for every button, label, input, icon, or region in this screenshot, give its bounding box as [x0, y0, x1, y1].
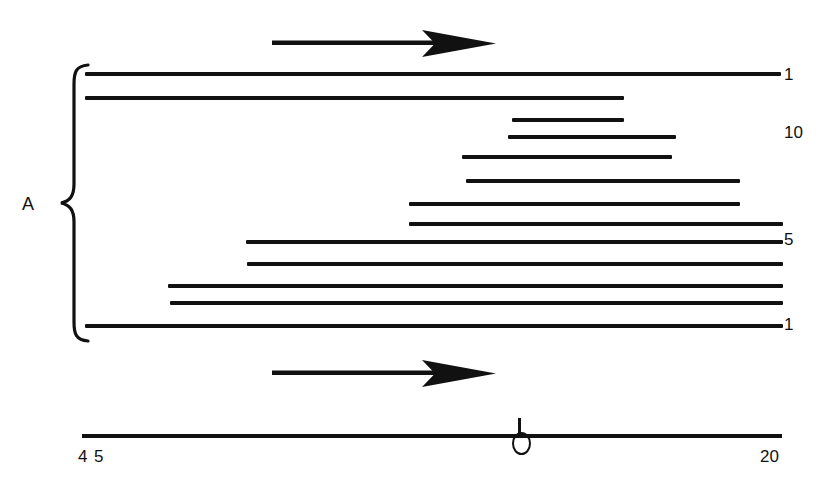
fragment-bar-row-5 [462, 155, 672, 159]
row-number-5: 5 [784, 231, 793, 248]
fragment-bar-row-3 [512, 118, 624, 122]
fragment-bar-row-8 [409, 222, 783, 226]
axis-tick-label-5: 5 [94, 448, 103, 465]
group-brace-icon [58, 62, 92, 344]
fragment-bar-row-11 [168, 284, 783, 288]
fragment-bar-row-10 [247, 262, 783, 266]
row-number-1-top: 1 [784, 66, 793, 83]
figure-canvas: A 1 10 5 1 4 5 20 [0, 0, 820, 486]
axis-line [82, 434, 782, 438]
fragment-bar-row-4 [508, 135, 676, 139]
direction-arrow-bottom-icon [272, 358, 496, 388]
fragment-bar-row-6 [466, 179, 740, 183]
axis-origin-circle-icon [512, 432, 531, 455]
fragment-bar-row-1 [85, 72, 781, 76]
group-label-a: A [22, 195, 34, 213]
fragment-bar-row-2 [85, 96, 624, 100]
row-number-10: 10 [784, 124, 803, 141]
fragment-bar-row-7 [409, 202, 740, 206]
direction-arrow-top-icon [272, 28, 496, 58]
fragment-bar-row-13 [85, 324, 783, 328]
fragment-bar-row-9 [246, 240, 783, 244]
row-number-1-bottom: 1 [784, 316, 793, 333]
scale-axis: 4 5 20 [70, 418, 795, 480]
axis-tick-label-4: 4 [78, 448, 87, 465]
fragment-bar-row-12 [170, 301, 783, 305]
axis-tick-label-20: 20 [760, 448, 779, 465]
